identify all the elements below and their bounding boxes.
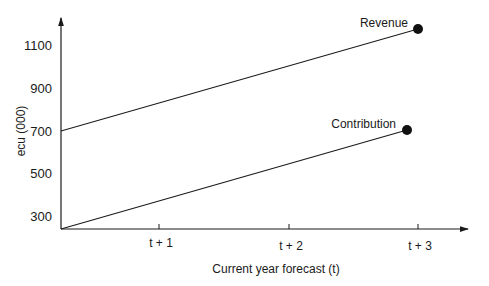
chart: 1100 900 700 500 300 ecu (000) t + 1 t +…: [0, 0, 489, 286]
y-axis-label: ecu (000): [14, 106, 28, 157]
x-tick-t1: t + 1: [149, 236, 173, 250]
revenue-label: Revenue: [360, 16, 408, 30]
contribution-line: [61, 130, 407, 229]
y-tick-900: 900: [30, 81, 52, 96]
revenue-line: [61, 29, 418, 131]
x-tick-t3: t + 3: [408, 239, 432, 253]
x-tick-t2: t + 2: [279, 239, 303, 253]
y-tick-1100: 1100: [24, 38, 52, 53]
revenue-end-marker: [413, 24, 423, 34]
x-axis-label: Current year forecast (t): [212, 262, 339, 276]
y-tick-labels: 1100 900 700 500 300: [24, 38, 52, 224]
contribution-end-marker: [402, 125, 412, 135]
x-ticks: [159, 224, 418, 229]
y-tick-700: 700: [30, 124, 52, 139]
y-tick-500: 500: [30, 166, 52, 181]
y-tick-300: 300: [30, 209, 52, 224]
contribution-label: Contribution: [331, 117, 396, 131]
x-tick-labels: t + 1 t + 2 t + 3: [149, 236, 432, 253]
